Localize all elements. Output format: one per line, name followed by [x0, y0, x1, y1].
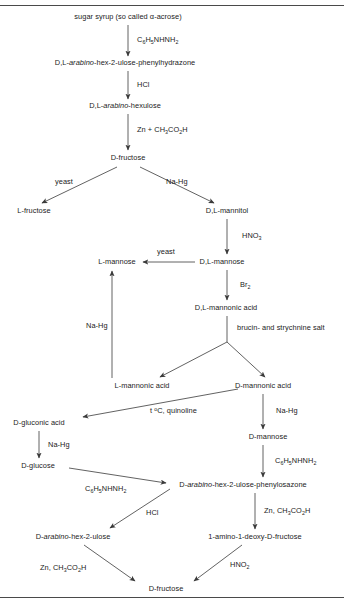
- reagent-na-hg-4: Na-Hg: [48, 441, 70, 448]
- reagent-hcl-2: HCl: [146, 509, 158, 516]
- compound-d-fructose-bottom: D-fructose: [149, 585, 184, 592]
- reagent-hno3: HNO3: [242, 232, 262, 239]
- reagent-na-hg-3: Na-Hg: [276, 407, 298, 414]
- compound-d-arabino-hex-2-ulose: D-arabino-hex-2-ulose: [36, 533, 111, 540]
- compound-dl-mannitol: D,L-mannitol: [206, 207, 249, 214]
- arrow-glucose-to-osazone: [69, 468, 166, 483]
- compound-dl-arabino-hexulose: D,L-arabino-hexulose: [89, 102, 161, 109]
- reagent-na-hg-2: Na-Hg: [86, 322, 108, 329]
- reagent-hcl-1: HCl: [137, 81, 149, 88]
- reagent-zn-acoh-3: Zn, CH3CO2H: [40, 564, 86, 571]
- reagent-br2: Br2: [240, 281, 251, 288]
- reagent-t-quinoline: t oC, quinoline: [150, 407, 197, 414]
- reagent-zn-acoh-1: Zn + CH3CO2H: [137, 126, 188, 133]
- reagent-phenylhydrazine-1: C6H5NHNH2: [137, 36, 178, 43]
- compound-d-arabino-phenylosazone: D-arabino-hex-2-ulose-phenylosazone: [179, 481, 306, 488]
- reagent-hno2: HNO2: [230, 561, 250, 568]
- compound-dl-mannonic-acid: D,L-mannonic acid: [195, 304, 257, 311]
- reagent-zn-acoh-2: Zn, CH3CO2H: [264, 507, 310, 514]
- reagent-phenylhydrazine-3: C6H5NHNH2: [85, 485, 126, 492]
- compound-l-fructose: L-fructose: [17, 207, 50, 214]
- compound-l-mannonic-acid: L-mannonic acid: [115, 382, 170, 389]
- reagent-phenylhydrazine-2: C6H5NHNH2: [275, 457, 316, 464]
- arrow-hex2ulose-to-fructose: [84, 545, 135, 581]
- reagent-yeast-1: yeast: [55, 178, 73, 185]
- reagent-na-hg-1: Na-Hg: [166, 178, 188, 185]
- arrow-branch-to-lmannonic: [160, 342, 227, 377]
- reaction-scheme-diagram: sugar syrup (so called α-acrose)D,L-arab…: [0, 0, 344, 607]
- reagent-brucin-strychnine: brucin- and strychnine salt: [237, 324, 325, 331]
- compound-d-fructose-top: D-fructose: [111, 154, 146, 161]
- arrow-osazone-to-hex2ulose: [110, 489, 170, 528]
- arrow-branch-to-dmannonic: [227, 342, 265, 377]
- arrow-layer: [0, 0, 344, 607]
- compound-d-mannose: D-mannose: [249, 433, 288, 440]
- reagent-yeast-2: yeast: [157, 248, 175, 255]
- compound-d-gluconic-acid: D-gluconic acid: [13, 419, 64, 426]
- compound-dl-mannose: D,L-mannose: [200, 258, 245, 265]
- compound-amino-deoxy-fructose: 1-amino-1-deoxy-D-fructose: [208, 533, 301, 540]
- arrow-fructose-to-lfructose: [42, 167, 117, 203]
- compound-d-mannonic-acid: D-mannonic acid: [235, 382, 291, 389]
- compound-d-glucose: D-glucose: [21, 462, 55, 469]
- compound-sugar-syrup: sugar syrup (so called α-acrose): [74, 13, 181, 20]
- compound-dl-arabino-phenylhydrazone: D,L-arabino-hex-2-ulose-phenylhydrazone: [55, 59, 195, 66]
- compound-l-mannose: L-mannose: [98, 258, 135, 265]
